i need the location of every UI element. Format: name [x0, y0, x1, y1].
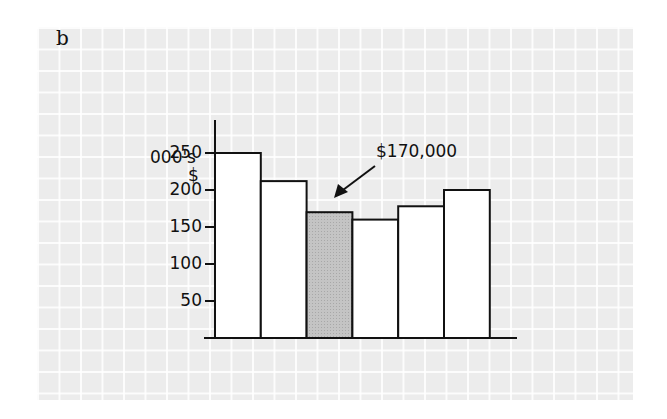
bar-5: [398, 206, 444, 338]
bar-6: [444, 190, 490, 338]
bar-3: [307, 212, 353, 338]
annotation-label: $170,000: [376, 141, 457, 161]
bar-4: [352, 220, 398, 338]
bar-1: [215, 153, 261, 338]
bar-chart: [0, 0, 667, 419]
bar-2: [261, 181, 307, 338]
bars: [215, 153, 490, 338]
annotation-arrow-icon: [334, 166, 375, 198]
